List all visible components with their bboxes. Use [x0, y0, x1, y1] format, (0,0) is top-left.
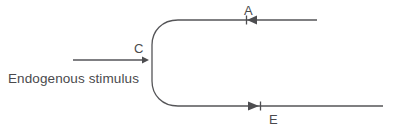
label-c: C: [134, 41, 144, 56]
label-a: A: [244, 3, 253, 18]
loop-path: [152, 20, 383, 106]
stimulus-arrowhead-icon: [142, 57, 149, 64]
arrowhead-e-icon: [248, 102, 259, 111]
label-e: E: [269, 112, 278, 127]
loop-diagram-svg: C A E Endogenous stimulus: [0, 0, 400, 129]
caption-endogenous-stimulus: Endogenous stimulus: [8, 71, 139, 86]
diagram-canvas: C A E Endogenous stimulus: [0, 0, 400, 129]
